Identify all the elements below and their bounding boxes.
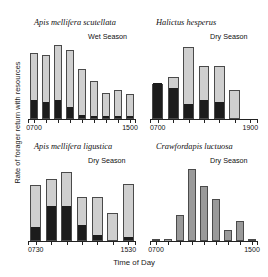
bar-segment-dark bbox=[47, 206, 56, 240]
axis-tick bbox=[150, 242, 151, 245]
bar-segment-dark bbox=[91, 116, 97, 118]
bar bbox=[90, 81, 98, 119]
axis-tick-label: 1500 bbox=[117, 124, 143, 131]
axis-tick-label: 0700 bbox=[145, 124, 171, 131]
axis-tick bbox=[228, 242, 229, 245]
bar-segment-dark bbox=[124, 237, 133, 240]
bar-segment-light bbox=[62, 173, 71, 206]
panel-crawfordapis-luctuosa: Crawfordapis luctuosa Dry Season 0700150… bbox=[148, 142, 264, 254]
bar bbox=[229, 90, 240, 119]
bar bbox=[199, 66, 210, 119]
bar bbox=[42, 55, 50, 119]
bar-segment-dark bbox=[93, 235, 102, 240]
bar bbox=[224, 230, 232, 241]
bar bbox=[214, 66, 225, 119]
bar-segment-dark bbox=[78, 225, 87, 240]
plot-area: 07001900 bbox=[150, 40, 258, 120]
axis-tick bbox=[36, 242, 37, 245]
axis-tick-label: 0730 bbox=[23, 246, 49, 253]
bar bbox=[61, 172, 72, 241]
bar-segment-light bbox=[189, 170, 195, 240]
plot-area: 07001500 bbox=[28, 40, 136, 120]
axis-tick bbox=[189, 120, 190, 123]
panel-title: Apis mellifera scutellata bbox=[34, 18, 116, 27]
bar bbox=[152, 239, 160, 241]
bar bbox=[77, 197, 88, 241]
axis-tick bbox=[70, 120, 71, 123]
bar-segment-dark bbox=[31, 100, 37, 118]
bar-segment-dark bbox=[31, 227, 40, 240]
bar-segment-dark bbox=[67, 107, 73, 118]
axis-tick bbox=[106, 120, 107, 123]
panel-halictus-hesperus: Halictus hesperus Dry Season 07001900 bbox=[148, 18, 264, 130]
bar bbox=[30, 185, 41, 241]
x-axis-label: Time of Day bbox=[0, 258, 268, 267]
bar-segment-light bbox=[184, 48, 193, 104]
bar-segment-light bbox=[115, 91, 121, 115]
bar-segment-light bbox=[78, 198, 87, 226]
bar-segment-light bbox=[108, 214, 117, 240]
axis-tick bbox=[130, 120, 131, 123]
bar bbox=[46, 179, 57, 241]
bar-segment-dark bbox=[55, 100, 61, 118]
axis-tick bbox=[118, 120, 119, 123]
axis-tick bbox=[219, 120, 220, 123]
bar bbox=[30, 53, 38, 119]
bar-segment-light bbox=[55, 46, 61, 100]
axis-tick bbox=[235, 120, 236, 123]
bar-segment-dark bbox=[115, 116, 121, 118]
bar bbox=[92, 197, 103, 241]
bar bbox=[152, 84, 163, 119]
bar-segment-dark bbox=[43, 102, 49, 118]
bar-segment-light bbox=[67, 51, 73, 107]
bar-segment-dark bbox=[215, 102, 224, 118]
bar bbox=[102, 93, 110, 119]
axis-tick-label: 1900 bbox=[237, 124, 263, 131]
plot-area: 07001500 bbox=[150, 164, 258, 242]
axis-tick bbox=[135, 120, 136, 123]
axis-tick bbox=[28, 242, 29, 245]
axis-tick bbox=[34, 120, 35, 123]
axis-tick-label: 0700 bbox=[21, 124, 47, 131]
axis-tick bbox=[250, 120, 251, 123]
bar-segment-light bbox=[230, 91, 239, 118]
axis-tick bbox=[28, 120, 29, 123]
bar bbox=[176, 215, 184, 241]
axis-tick bbox=[150, 120, 151, 123]
panel-title: Crawfordapis luctuosa bbox=[156, 142, 233, 151]
axis-tick bbox=[173, 120, 174, 123]
bar-segment-light bbox=[124, 185, 133, 237]
axis-tick-label: 1530 bbox=[115, 246, 141, 253]
plot-area: 07301530 bbox=[28, 164, 136, 242]
bar-segment-dark bbox=[62, 206, 71, 240]
y-axis-label: Rate of forager return with resources bbox=[13, 43, 22, 203]
bar-segment-light bbox=[91, 82, 97, 115]
axis-tick bbox=[158, 120, 159, 123]
figure-root: Rate of forager return with resources Ti… bbox=[0, 0, 268, 277]
bar-segment-light bbox=[79, 70, 85, 114]
bar-segment-dark bbox=[103, 116, 109, 118]
bar-segment-light bbox=[169, 78, 178, 89]
axis-tick bbox=[252, 242, 253, 245]
panel-title: Halictus hesperus bbox=[156, 18, 216, 27]
axis-tick-label: 0700 bbox=[143, 246, 169, 253]
bar-segment-light bbox=[103, 94, 109, 117]
bar-segment-light bbox=[93, 198, 102, 234]
panel-apis-mellifera-ligustica: Apis mellifera ligustica Dry Season 0730… bbox=[26, 142, 138, 254]
bar-segment-light bbox=[201, 187, 207, 240]
bar-segment-dark bbox=[169, 88, 178, 118]
bar-segment-light bbox=[47, 180, 56, 206]
axis-tick bbox=[135, 242, 136, 245]
bar-segment-light bbox=[237, 222, 243, 240]
axis-tick bbox=[82, 242, 83, 245]
axis-tick bbox=[58, 120, 59, 123]
axis-tick bbox=[204, 242, 205, 245]
bar-segment-dark bbox=[153, 83, 162, 118]
bar-segment-light bbox=[31, 186, 40, 227]
bar-segment-light bbox=[225, 231, 231, 240]
axis-tick bbox=[192, 242, 193, 245]
axis-tick bbox=[257, 242, 258, 245]
axis-tick bbox=[156, 242, 157, 245]
bar bbox=[248, 239, 256, 241]
axis-tick bbox=[204, 120, 205, 123]
